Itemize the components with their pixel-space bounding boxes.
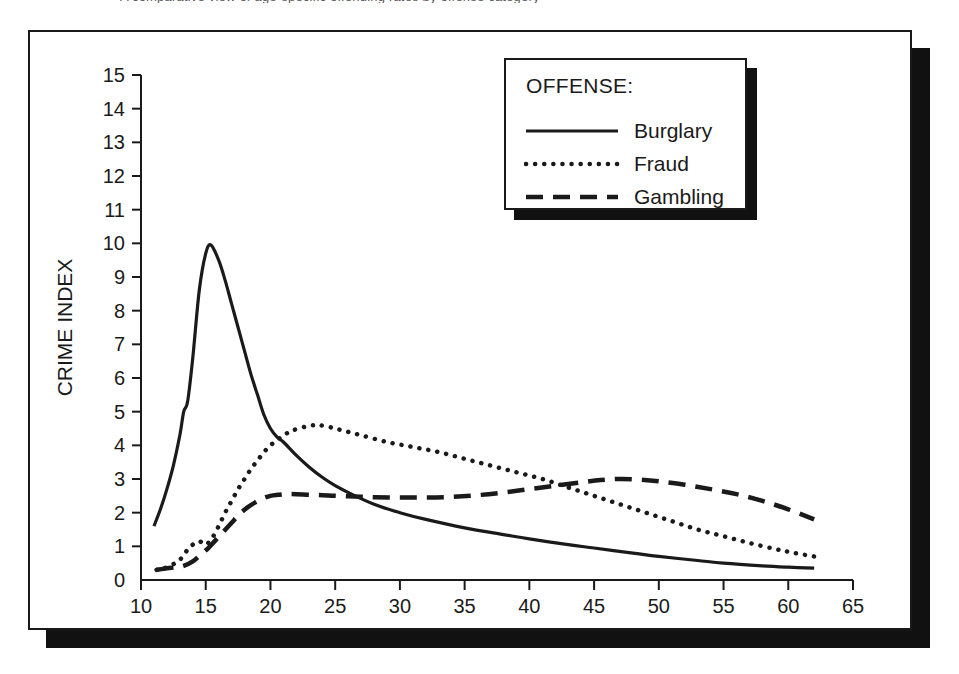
legend-line-sample-dotted — [524, 154, 620, 174]
x-tick-label: 45 — [583, 595, 605, 617]
x-tick-label: 25 — [324, 595, 346, 617]
legend-item-burglary[interactable]: Burglary — [524, 116, 712, 146]
y-tick-label: 14 — [103, 98, 125, 120]
y-tick-label: 3 — [114, 468, 125, 490]
legend-item-gambling[interactable]: Gambling — [524, 182, 724, 212]
figure-frame: 0123456789101112131415101520253035404550… — [28, 30, 912, 630]
y-tick-label: 2 — [114, 502, 125, 524]
x-tick-label: 40 — [518, 595, 540, 617]
x-tick-label: 35 — [454, 595, 476, 617]
legend-line-sample-dashed — [524, 187, 620, 207]
legend-label: Fraud — [634, 152, 689, 176]
legend-title: OFFENSE: — [526, 74, 633, 98]
figure-page: A comparative view of age-specific offen… — [0, 0, 959, 674]
x-tick-label: 50 — [648, 595, 670, 617]
y-tick-label: 9 — [114, 266, 125, 288]
y-tick-label: 8 — [114, 300, 125, 322]
x-tick-label: 30 — [389, 595, 411, 617]
x-tick-label: 20 — [259, 595, 281, 617]
y-axis-ticks: 0123456789101112131415 — [103, 64, 141, 591]
page-caption-sliver: A comparative view of age-specific offen… — [0, 0, 959, 3]
chart-plot-area: 0123456789101112131415101520253035404550… — [30, 32, 914, 632]
y-tick-label: 6 — [114, 367, 125, 389]
series-line-burglary — [154, 245, 814, 568]
y-tick-label: 15 — [103, 64, 125, 86]
x-tick-label: 60 — [777, 595, 799, 617]
y-tick-label: 12 — [103, 165, 125, 187]
legend: OFFENSE:BurglaryFraudGambling — [504, 58, 747, 210]
x-tick-label: 65 — [842, 595, 864, 617]
legend-label: Gambling — [634, 185, 724, 209]
y-tick-label: 0 — [114, 569, 125, 591]
legend-line-sample-solid — [524, 121, 620, 141]
y-tick-label: 10 — [103, 232, 125, 254]
x-axis-ticks: 101520253035404550556065 — [130, 580, 864, 617]
x-tick-label: 10 — [130, 595, 152, 617]
y-axis-title: CRIME INDEX — [53, 259, 76, 397]
y-tick-label: 5 — [114, 401, 125, 423]
y-tick-label: 7 — [114, 333, 125, 355]
series-line-gambling — [157, 479, 815, 570]
x-tick-label: 15 — [195, 595, 217, 617]
x-tick-label: 55 — [712, 595, 734, 617]
y-tick-label: 13 — [103, 131, 125, 153]
legend-item-fraud[interactable]: Fraud — [524, 149, 689, 179]
legend-label: Burglary — [634, 119, 712, 143]
series-line-fraud — [157, 425, 815, 570]
y-tick-label: 11 — [104, 199, 125, 221]
y-tick-label: 4 — [114, 434, 125, 456]
y-tick-label: 1 — [114, 535, 125, 557]
crime-index-line-chart: 0123456789101112131415101520253035404550… — [30, 32, 914, 632]
